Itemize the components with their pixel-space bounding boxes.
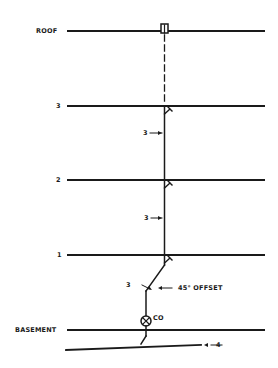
pipe-size-label: 3: [143, 129, 148, 137]
pipe-size-label: 3: [144, 214, 149, 222]
branch-fitting-1: [165, 256, 173, 263]
pipe-size-label: 3: [126, 281, 131, 289]
floor-label-roof: ROOF: [36, 27, 57, 35]
arrow-icon: [204, 343, 208, 347]
arrow-icon: [158, 286, 162, 290]
branch-fitting-2: [165, 181, 173, 188]
floor-label-2: 2: [56, 176, 61, 184]
cleanout-label: CO: [153, 314, 164, 322]
floor-label-3: 3: [56, 102, 61, 110]
drain-size-label: 4: [216, 341, 221, 349]
arrow-icon: [158, 131, 162, 135]
building-drain: [66, 345, 201, 350]
branch-fitting-3: [165, 107, 173, 114]
floor-label-basement: BASEMENT: [15, 326, 57, 334]
floor-label-1: 1: [57, 251, 62, 259]
arrow-icon: [158, 216, 162, 220]
offset-label: 45° OFFSET: [178, 284, 223, 292]
riser-diagram: [0, 0, 278, 368]
